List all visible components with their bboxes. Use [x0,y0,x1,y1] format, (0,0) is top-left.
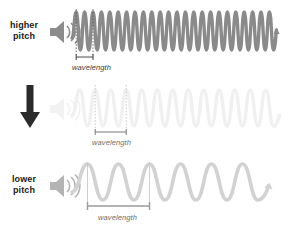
pitch-wavelength-figure: higher pitch wavelength [0,0,295,230]
lower-pitch-wave [0,154,295,230]
wavelength-label-higher: wavelength [72,63,111,72]
transition-row: wavelength [0,77,295,153]
higher-pitch-row: higher pitch wavelength [0,0,295,76]
wavelength-label-transition: wavelength [92,138,131,147]
lower-pitch-row: lower pitch wavelength [0,154,295,230]
wavelength-label-lower: wavelength [98,213,137,222]
transition-wave [0,77,295,153]
higher-pitch-wave [0,0,295,76]
